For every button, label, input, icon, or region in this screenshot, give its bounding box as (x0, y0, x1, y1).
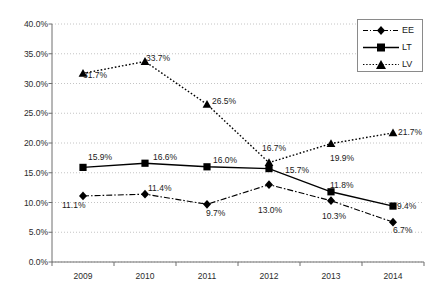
legend-sample-ee (362, 22, 400, 39)
data-label-lv: 19.9% (330, 153, 354, 163)
x-axis-tick-label: 2010 (125, 271, 165, 281)
data-label-ee: 11.1% (62, 200, 85, 210)
line-chart: 40.0%35.0%30.0%25.0%20.0%15.0%10.0%5.0%0… (0, 0, 432, 295)
data-label-lt: 16.0% (213, 155, 237, 165)
data-label-lv: 21.7% (398, 127, 422, 137)
data-label-lv: 26.5% (212, 96, 236, 106)
y-axis-tick-label: 10.0% (4, 198, 48, 208)
legend-label-lv: LV (402, 59, 412, 69)
legend-label-ee: EE (402, 25, 414, 35)
data-label-lt: 15.9% (88, 152, 112, 162)
x-axis-tick-label: 2013 (311, 271, 351, 281)
x-axis-tick-label: 2011 (187, 271, 227, 281)
y-axis-tick-label: 15.0% (4, 168, 48, 178)
y-axis-tick-label: 35.0% (4, 49, 48, 59)
legend-item-lv[interactable]: LV (358, 56, 424, 73)
y-axis-tick-label: 5.0% (4, 227, 48, 237)
data-label-lt: 16.6% (153, 152, 177, 162)
data-label-ee: 11.4% (148, 183, 171, 193)
data-label-ee: 6.7% (393, 225, 412, 235)
data-label-lt: 9.4% (397, 201, 416, 211)
x-axis-tick-label: 2014 (373, 271, 413, 281)
x-axis-tick-label: 2012 (249, 271, 289, 281)
data-label-ee: 10.3% (322, 211, 346, 221)
data-label-ee: 9.7% (206, 208, 225, 218)
data-label-ee: 13.0% (258, 205, 282, 215)
y-axis-tick-label: 30.0% (4, 79, 48, 89)
legend-sample-lv (362, 56, 400, 73)
y-axis-tick-label: 25.0% (4, 108, 48, 118)
data-label-lt: 15.7% (285, 165, 309, 175)
legend-item-ee[interactable]: EE (358, 22, 424, 39)
data-label-lv: 16.7% (262, 143, 286, 153)
data-label-lv: 33.7% (146, 53, 170, 63)
legend-label-lt: LT (402, 42, 412, 52)
y-axis-tick-label: 20.0% (4, 138, 48, 148)
legend-item-lt[interactable]: LT (358, 39, 424, 56)
data-label-lv: 31.7% (83, 70, 107, 80)
legend-sample-lt (362, 39, 400, 56)
legend[interactable]: EE LT LV (357, 19, 423, 72)
y-axis-tick-label: 40.0% (4, 19, 48, 29)
x-axis-tick-label: 2009 (63, 271, 103, 281)
y-axis-tick-label: 0.0% (4, 257, 48, 267)
data-label-lt: 11.8% (330, 180, 353, 190)
